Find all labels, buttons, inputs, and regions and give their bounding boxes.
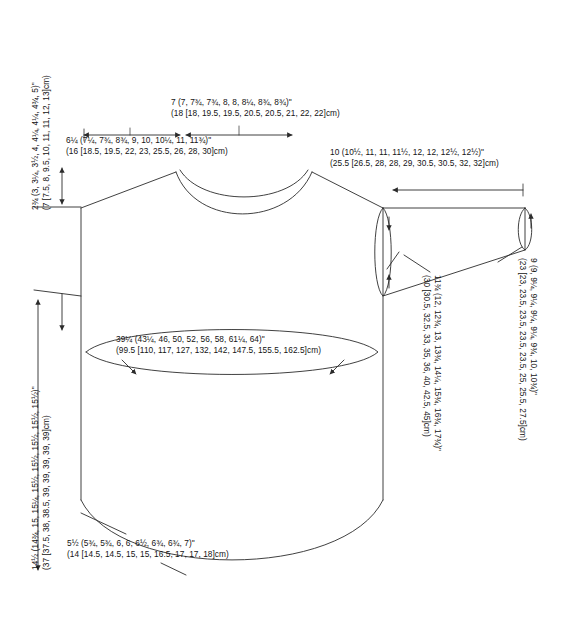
- garment-drawing: [0, 0, 565, 622]
- body-circumference-arrows: [122, 360, 344, 374]
- sleeve-length-cm: (30 [30.5, 32.5, 33, 35, 36, 40, 42.5, 4…: [421, 275, 432, 451]
- left-armhole-ledge: [34, 207, 81, 296]
- sleeve-length-label: 11¾ (12, 12¾, 13, 13¾, 14¼, 15¾, 16¾, 17…: [421, 275, 443, 451]
- schematic-page: 2¾ (3, 3¼, 3½, 4, 4¼, 4¼, 4¾, 5)" (7 [7.…: [0, 0, 565, 622]
- hem-curve-depth-cm: (14 [14.5, 14.5, 15, 15, 16.5, 17, 17, 1…: [67, 549, 229, 560]
- shoulder-width-cm: (16 [18.5, 19.5, 22, 23, 25.5, 26, 28, 3…: [66, 146, 228, 157]
- armhole-depth-cm: (7 [7.5, 8, 9.5, 10, 11, 11, 12, 13]cm): [41, 75, 52, 210]
- hem-curve-depth-label: 5½ (5¾, 5¾, 6, 6, 6½, 6¾, 6¾, 7)" (14 [1…: [67, 538, 229, 560]
- cuff-width-inches: 9 (9, 9¼, 9¼, 9¼, 9¼, 9¾, 10, 10¾)": [528, 258, 539, 441]
- cuff-width-label: 9 (9, 9¼, 9¼, 9¼, 9¼, 9¾, 10, 10¾)" (23 …: [517, 258, 539, 441]
- body-circumference-inches: 39¼ (43¼, 46, 50, 52, 56, 58, 61¼, 64)": [116, 334, 321, 345]
- back-neck-width-dimension: [186, 126, 292, 135]
- upper-sleeve-width-label: 10 (10½, 11, 11, 11½, 12, 12, 12½, 12½)"…: [330, 147, 499, 169]
- body-circumference-cm: (99.5 [110, 117, 127, 132, 142, 147.5, 1…: [116, 345, 321, 356]
- back-neck-width-cm: (18 [18, 19.5, 19.5, 20.5, 20.5, 21, 22,…: [171, 108, 340, 119]
- upper-sleeve-width-inches: 10 (10½, 11, 11, 11½, 12, 12, 12½, 12½)": [330, 147, 499, 158]
- armhole-depth-inches: 2¾ (3, 3¼, 3½, 4, 4¼, 4¼, 4¾, 5)": [30, 75, 41, 210]
- back-neck-width-inches: 7 (7, 7¾, 7¾, 8, 8, 8¼, 8¾, 8¾)": [171, 97, 340, 108]
- sleeve-length-inches: 11¾ (12, 12¾, 13, 13¾, 14¼, 15¾, 16¾, 17…: [432, 275, 443, 451]
- upper-sleeve-width-cm: (25.5 [26.5, 28, 28, 29, 30.5, 30.5, 32,…: [330, 158, 499, 169]
- cuff-width-cm: (23 [23, 23.5, 23.5, 23.5, 23.5, 25, 25.…: [517, 258, 528, 441]
- body-length-cm: (37 [37.5, 38, 38.5, 39, 39, 39, 39, 39]…: [41, 386, 52, 570]
- back-neck-width-label: 7 (7, 7¾, 7¾, 8, 8, 8¼, 8¾, 8¾)" (18 [18…: [171, 97, 340, 119]
- body-circumference-label: 39¼ (43¼, 46, 50, 52, 56, 58, 61¼, 64)" …: [116, 334, 321, 356]
- upper-sleeve-dimension: [393, 184, 523, 196]
- armhole-depth-label: 2¾ (3, 3¼, 3½, 4, 4¼, 4¼, 4¾, 5)" (7 [7.…: [30, 75, 52, 210]
- hem-curve-depth-inches: 5½ (5¾, 5¾, 6, 6, 6½, 6¾, 6¾, 7)": [67, 538, 229, 549]
- shoulder-width-inches: 6¼ (7¼, 7¾, 8¾, 9, 10, 10¼, 11, 11¾)": [66, 135, 228, 146]
- body-length-inches: 14½ (14¾, 15, 15¼, 15½, 15½, 15½, 15½, 1…: [30, 386, 41, 570]
- right-sleeve: [383, 208, 525, 296]
- neckline-back-curve: [180, 170, 308, 197]
- upper-sleeve-ellipse-arrows: [387, 217, 399, 288]
- body-length-label: 14½ (14¾, 15, 15¼, 15½, 15½, 15½, 15½, 1…: [30, 386, 52, 570]
- shoulder-width-label: 6¼ (7¼, 7¾, 8¾, 9, 10, 10¼, 11, 11¾)" (1…: [66, 135, 228, 157]
- sleeve-length-leader: [404, 255, 430, 272]
